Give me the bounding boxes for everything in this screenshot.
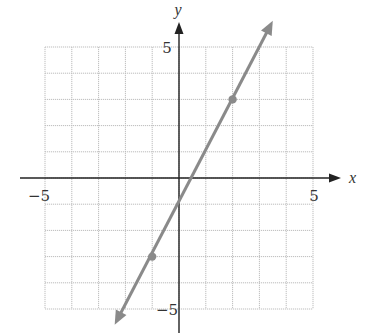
x-axis-arrow-icon <box>329 174 341 183</box>
x-tick-label: 5 <box>309 187 319 205</box>
y-axis-label: y <box>172 1 182 19</box>
data-point <box>228 95 236 103</box>
data-series <box>115 21 273 325</box>
y-axis-arrow-icon <box>175 22 184 34</box>
coordinate-plane-chart: xy−555−5 <box>0 0 366 333</box>
x-axis-label: x <box>348 169 356 186</box>
axes <box>20 22 341 333</box>
data-point <box>148 252 156 260</box>
labels: xy−555−5 <box>28 1 356 319</box>
y-tick-label: 5 <box>162 39 172 57</box>
y-tick-label: −5 <box>156 301 178 319</box>
x-tick-label: −5 <box>28 187 50 205</box>
